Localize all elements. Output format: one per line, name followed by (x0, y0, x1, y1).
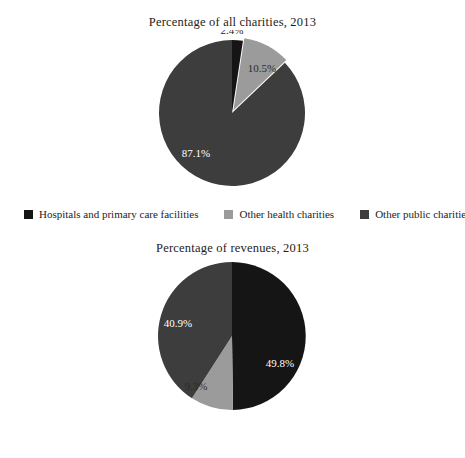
pie-chart-revenues: 49.8% 9.3% 40.9% (0, 256, 465, 416)
legend-label-other-health: Other health charities (239, 208, 334, 220)
pie-label-other-health-charities: 10.5% (248, 62, 276, 74)
chart-title-revenues: Percentage of revenues, 2013 (0, 232, 465, 256)
pie-svg-revenues: 49.8% 9.3% 40.9% (0, 256, 465, 416)
pie-label-other-public-charities: 87.1% (182, 147, 210, 159)
chart-block-all-charities: Percentage of all charities, 2013 2.4% 1… (0, 0, 465, 232)
chart-title-all-charities: Percentage of all charities, 2013 (0, 0, 465, 30)
legend-item-hospitals[interactable]: Hospitals and primary care facilities (24, 208, 198, 220)
legend-item-other-public[interactable]: Other public charities (360, 208, 465, 220)
legend-label-other-public: Other public charities (375, 208, 465, 220)
pie-slice-hospitals-primary-care[interactable] (232, 262, 306, 410)
pie-label-hospitals-primary-care: 49.8% (266, 357, 294, 369)
legend-label-hospitals: Hospitals and primary care facilities (39, 208, 198, 220)
charity-pie-charts-figure: Percentage of all charities, 2013 2.4% 1… (0, 0, 465, 458)
pie-svg-all-charities: 2.4% 10.5% 87.1% (0, 30, 465, 195)
legend-swatch-other-health-icon (224, 210, 233, 219)
pie-label-other-public-charities: 40.9% (164, 317, 192, 329)
pie-chart-all-charities: 2.4% 10.5% 87.1% (0, 30, 465, 195)
pie-label-hospitals-primary-care: 2.4% (221, 30, 244, 36)
pie-label-other-health-charities: 9.3% (185, 380, 208, 392)
legend-all-charities: Hospitals and primary care facilities Ot… (0, 208, 465, 220)
chart-block-revenues: Percentage of revenues, 2013 49.8% 9.3% … (0, 232, 465, 458)
legend-swatch-hospitals-icon (24, 210, 33, 219)
legend-swatch-other-public-icon (360, 210, 369, 219)
legend-item-other-health[interactable]: Other health charities (224, 208, 334, 220)
